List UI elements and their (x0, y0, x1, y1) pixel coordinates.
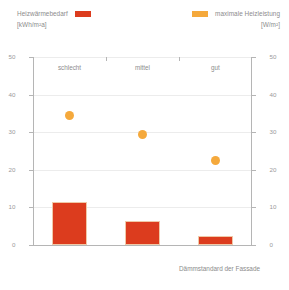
y-tick-mark-right (252, 170, 256, 171)
bar (198, 236, 233, 245)
y-tick-label-left: 10 (9, 204, 16, 210)
y-tick-mark-right (252, 245, 256, 246)
data-point-marker (138, 130, 147, 139)
legend-right-unit: [W/m²] (192, 20, 280, 30)
x-tick-mark (33, 57, 34, 61)
y-axis-left (33, 57, 34, 245)
y-axis-right (251, 57, 252, 245)
x-category-label: gut (211, 64, 220, 71)
x-category-label: schlecht (58, 64, 81, 71)
y-tick-mark-left (29, 95, 33, 96)
x-tick-mark (179, 57, 180, 61)
y-tick-label-left: 0 (12, 242, 15, 248)
y-tick-label-right: 40 (270, 91, 277, 97)
x-axis-title: Dämmstandard der Fassade (179, 265, 260, 272)
y-tick-label-right: 50 (270, 54, 277, 60)
bar-color-swatch (75, 11, 91, 17)
marker-color-swatch (192, 11, 208, 17)
y-tick-label-right: 10 (270, 204, 277, 210)
bar (52, 202, 87, 245)
gridline (33, 170, 252, 171)
x-tick-mark (251, 57, 252, 61)
legend-left-label: Heizwärmebedarf (17, 9, 68, 19)
legend-left: Heizwärmebedarf [kWh/m²a] (17, 9, 91, 29)
y-tick-mark-right (252, 57, 256, 58)
x-category-label: mittel (135, 64, 150, 71)
legend-left-row: Heizwärmebedarf (17, 9, 91, 19)
x-tick-mark (106, 57, 107, 61)
y-tick-mark-left (29, 207, 33, 208)
legend-right-row: maximale Heizleistung (192, 9, 280, 19)
chart-figure: Heizwärmebedarf [kWh/m²a] maximale Heizl… (0, 0, 289, 290)
gridline (33, 57, 252, 58)
gridline (33, 245, 252, 246)
y-tick-mark-left (29, 132, 33, 133)
gridline (33, 95, 252, 96)
bar (125, 221, 160, 245)
legend-right-label: maximale Heizleistung (215, 9, 280, 19)
legend-right: maximale Heizleistung [W/m²] (192, 9, 280, 29)
data-point-marker (211, 156, 220, 165)
y-tick-label-right: 20 (270, 167, 277, 173)
y-tick-label-left: 50 (9, 54, 16, 60)
legend-left-unit: [kWh/m²a] (17, 20, 91, 30)
y-tick-label-left: 20 (9, 167, 16, 173)
y-tick-mark-right (252, 95, 256, 96)
y-tick-label-left: 40 (9, 91, 16, 97)
y-tick-mark-left (29, 170, 33, 171)
data-point-marker (65, 111, 74, 120)
y-tick-label-right: 30 (270, 129, 277, 135)
y-tick-label-right: 0 (270, 242, 273, 248)
y-tick-label-left: 30 (9, 129, 16, 135)
y-tick-mark-left (29, 245, 33, 246)
plot-area: 01020304050 01020304050 schlechtmittelgu… (33, 57, 252, 245)
y-tick-mark-right (252, 207, 256, 208)
y-tick-mark-right (252, 132, 256, 133)
